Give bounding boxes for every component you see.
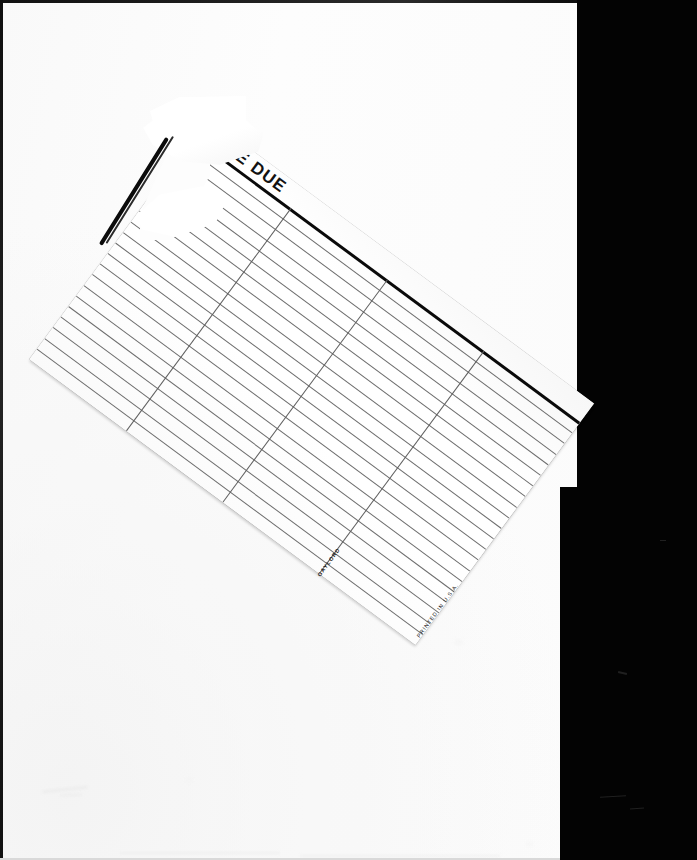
scanned-image: DATE DUE PRINTED IN U.S.A. GAYLORD: [0, 0, 697, 860]
page-edge-top: [0, 0, 577, 3]
page-smudge: [186, 778, 192, 782]
page-smudge: [527, 842, 532, 846]
page-streak: [120, 852, 280, 854]
page-smudge: [455, 640, 462, 645]
page-streak: [300, 855, 500, 857]
scan-speck: [660, 540, 666, 541]
page-edge-left: [0, 0, 3, 860]
